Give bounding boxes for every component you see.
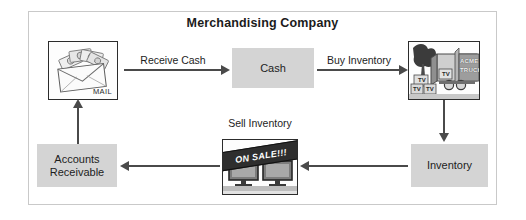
truck-brand-line2: TRUCKING — [460, 67, 480, 73]
mail-image-box: MAIL — [48, 41, 118, 100]
arrow-label-receive-cash: Receive Cash — [124, 54, 222, 66]
truck-image-box: ACME TRUCKING TV TV TV TV — [408, 41, 480, 100]
node-inventory: Inventory — [411, 144, 488, 187]
tv-carton-label-1: TV — [418, 77, 426, 83]
truck-brand-line1: ACME — [460, 58, 478, 64]
node-ar-label-line2: Receivable — [50, 166, 104, 178]
tvs-image-box: ON SALE!!! — [222, 139, 298, 195]
tv-carton-label-3: TV — [426, 86, 434, 92]
node-ar-label-line1: Accounts — [54, 153, 99, 165]
node-cash: Cash — [232, 48, 314, 88]
diagram-title: Merchandising Company — [28, 16, 497, 30]
tv-carton-label-2: TV — [413, 86, 421, 92]
node-cash-label: Cash — [260, 62, 286, 75]
arrow-label-sell-inventory: Sell Inventory — [197, 117, 323, 129]
on-sale-banner-label: ON SALE!!! — [235, 146, 288, 164]
node-inventory-label: Inventory — [427, 159, 472, 172]
node-accounts-receivable: Accounts Receivable — [37, 144, 117, 187]
diagram-canvas: Merchandising Company — [0, 0, 526, 220]
arrow-label-buy-inventory: Buy Inventory — [312, 54, 406, 66]
tv-carton-label-0: TV — [442, 71, 450, 77]
mail-label: MAIL — [93, 87, 112, 96]
